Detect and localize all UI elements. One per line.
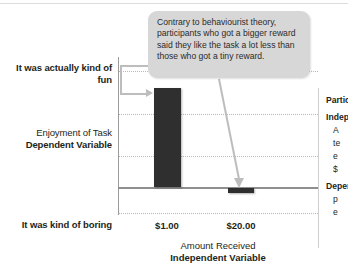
x-axis-title: Amount Received [181,240,256,251]
figure-canvas: It was actually kind of fun Enjoyment of… [0,0,348,275]
side-panel-section-2-heading: Dependent Variable [326,180,348,193]
y-axis-variable-role: Dependent Variable [8,139,112,151]
callout-connector-diagonal-line [219,79,239,179]
side-panel-section-2-line-1: p [326,193,348,206]
side-panel-section-1-heading: Independent Variable [326,111,348,124]
y-axis-title: Enjoyment of Task [36,127,112,138]
x-tick-label-2: $20.00 [214,220,268,231]
y-axis-top-anchor-label: It was actually kind of fun [8,62,112,85]
callout-bubble: Contrary to behaviourist theory, partici… [148,11,310,78]
gridline-bottom [119,213,318,214]
bar-dollar-20 [228,188,254,193]
gridline-upper-mid [119,114,318,115]
x-tick-label-1: $1.00 [140,220,194,231]
side-text-panel: Participants Independent Variable A te e… [318,88,348,248]
gridline-lower-mid [119,156,318,157]
side-panel-section-1-line-1: A [326,124,348,137]
x-axis-variable-role: Independent Variable [128,252,308,264]
page-top-rule [0,3,348,4]
y-axis-title-group: Enjoyment of Task Dependent Variable [8,127,112,151]
y-axis-bottom-anchor-label: It was kind of boring [8,219,112,231]
side-panel-section-1-line-4: $ [326,163,348,176]
side-panel-heading: Participants [326,94,348,107]
side-panel-section-1-line-2: te [326,137,348,150]
y-axis-line [118,57,119,215]
x-axis-title-group: Amount Received Independent Variable [128,240,308,264]
side-panel-section-1-line-3: e [326,150,348,163]
callout-arrow-to-bar-1-icon [146,89,153,97]
bar-dollar-1 [154,88,181,187]
callout-connector-elbow-vertical [120,66,122,94]
callout-connector-elbow-bottom [120,93,148,95]
x-axis-baseline [118,187,318,189]
side-panel-section-2-line-2: e [326,206,348,219]
